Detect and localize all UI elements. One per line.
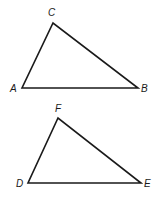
vertex-label-c: C <box>48 7 56 18</box>
vertex-label-a: A <box>9 83 17 94</box>
vertex-label-e: E <box>144 178 151 189</box>
vertex-label-d: D <box>16 178 23 189</box>
triangle-abc-outline <box>22 23 138 88</box>
triangle-def: F D E <box>16 103 151 189</box>
vertex-label-b: B <box>141 83 148 94</box>
triangle-abc: C A B <box>9 7 148 94</box>
vertex-label-f: F <box>55 103 62 114</box>
triangle-def-outline <box>28 118 141 183</box>
triangle-diagram: C A B F D E <box>0 0 163 200</box>
